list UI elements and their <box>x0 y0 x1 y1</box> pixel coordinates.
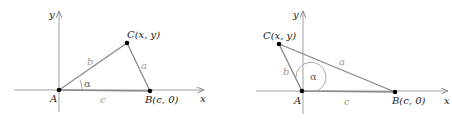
vertex-b-name: B <box>144 94 152 105</box>
point-a <box>57 88 62 93</box>
x-axis-label: x <box>444 95 450 106</box>
vertex-c-label: C(x, y) <box>263 30 296 41</box>
vertex-c-coords: (x, y) <box>271 30 297 41</box>
side-b-label: b <box>87 56 93 67</box>
diagram-right: y x A B(c, 0) C(x, y) b a c α <box>256 9 450 114</box>
triangle <box>59 43 150 91</box>
vertex-a-label: A <box>293 95 301 106</box>
y-axis-label: y <box>48 9 55 20</box>
vertex-a-label: A <box>49 93 57 104</box>
point-c <box>125 41 130 46</box>
vertex-b-coords: (c, 0) <box>399 95 425 106</box>
side-c-label: c <box>344 96 350 107</box>
side-c-label: c <box>100 94 106 105</box>
point-a <box>300 89 305 94</box>
point-c <box>277 42 282 47</box>
vertex-b-coords: (c, 0) <box>152 94 178 105</box>
angle-alpha-label: α <box>310 71 317 82</box>
triangle-diagrams: y x A B(c, 0) C(x, y) b a c α y x A B(c,… <box>0 0 452 120</box>
vertex-c-coords: (x, y) <box>135 29 161 40</box>
side-a-label: a <box>141 60 147 71</box>
diagram-left: y x A B(c, 0) C(x, y) b a c α <box>14 9 206 112</box>
x-axis-label: x <box>200 93 206 104</box>
y-axis-label: y <box>292 9 299 20</box>
triangle <box>279 44 395 92</box>
point-b <box>393 90 398 95</box>
vertex-c-label: C(x, y) <box>127 29 160 40</box>
side-b-label: b <box>283 66 289 77</box>
angle-arc <box>80 80 82 90</box>
point-b <box>148 89 153 94</box>
side-a-label: a <box>339 56 345 67</box>
angle-alpha-label: α <box>84 78 91 89</box>
vertex-b-label: B(c, 0) <box>144 94 179 105</box>
vertex-b-label: B(c, 0) <box>391 95 426 106</box>
vertex-b-name: B <box>391 95 399 106</box>
